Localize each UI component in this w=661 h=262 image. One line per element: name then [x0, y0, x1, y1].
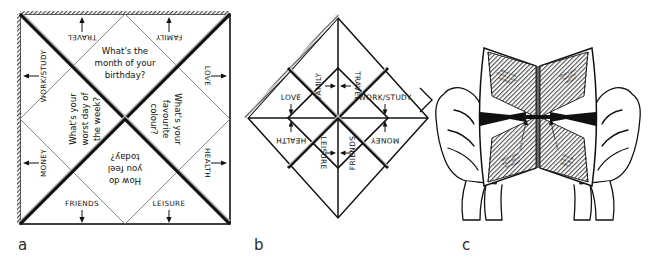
question-left-line1: What's your	[68, 93, 78, 145]
question-top-line1: What's the	[102, 46, 148, 56]
left-hand-finger-2	[485, 184, 503, 220]
fortune-teller-group: What's the month of your birthday? What'…	[480, 48, 597, 186]
category-friends: FRIENDS	[65, 199, 99, 208]
b-category-family-group: FAMILY	[314, 73, 323, 100]
category-travel-group: TRAVEL	[67, 33, 97, 42]
panel-b-folded-diamond: FAMILY TRAVEL LOVE HEALTH	[243, 8, 433, 228]
b-category-money: MONEY	[371, 136, 400, 145]
b-category-family: FAMILY	[314, 73, 323, 100]
category-love-group: LOVE	[203, 66, 212, 86]
right-hand-finger-1	[590, 181, 614, 220]
category-money: MONEY	[39, 149, 48, 177]
question-right-line1: What's your	[173, 93, 183, 145]
panel-label-a: a	[18, 238, 27, 253]
question-bottom-line1: How do	[109, 176, 141, 186]
category-health: HEALTH	[203, 148, 212, 178]
right-hand-finger-2	[574, 184, 592, 220]
question-right-line2: favourite	[161, 100, 171, 139]
b-category-health-group: HEALTH	[276, 136, 306, 145]
question-right-line3: colour?	[149, 103, 159, 134]
panel-label-b: b	[254, 238, 264, 253]
transition-arrow-icon	[420, 88, 432, 112]
question-top-line3: birthday?	[105, 70, 146, 80]
b-category-health: HEALTH	[276, 136, 306, 145]
panel-b-svg: FAMILY TRAVEL LOVE HEALTH	[243, 8, 433, 228]
question-left-line2: worst day of	[80, 91, 90, 145]
question-top-line2: month of your	[95, 58, 156, 68]
category-family-group: FAMILY	[156, 33, 183, 42]
question-bottom-line3: today?	[111, 152, 140, 162]
question-bottom-group: How do you feel today?	[108, 152, 143, 186]
category-health-group: HEALTH	[203, 148, 212, 178]
panel-c-hands-holding-fortune-teller: What's the month of your birthday? What'…	[418, 8, 658, 232]
category-travel: TRAVEL	[67, 33, 97, 42]
b-category-money-group: MONEY	[371, 136, 400, 145]
panel-a-svg: What's the month of your birthday? What'…	[14, 8, 236, 228]
category-workstudy-group: WORK/STUDY	[39, 49, 48, 102]
category-love: LOVE	[203, 66, 212, 86]
b-category-work-study: WORK/STUDY	[358, 93, 411, 102]
question-bottom-line2: you feel	[108, 164, 143, 174]
left-hand-finger-1	[462, 181, 486, 220]
category-family: FAMILY	[156, 33, 183, 42]
panel-c-svg: What's the month of your birthday? What'…	[418, 8, 658, 232]
question-left-group: What's your worst day of the week?	[68, 91, 102, 145]
arrow-shaft	[524, 115, 552, 119]
category-work-study: WORK/STUDY	[39, 49, 48, 102]
panel-label-c: c	[462, 238, 470, 253]
panel-a-unfolded-sheet: What's the month of your birthday? What'…	[14, 8, 236, 228]
b-category-love: LOVE	[281, 93, 301, 102]
category-money-group: MONEY	[39, 149, 48, 177]
category-leisure: LEISURE	[153, 199, 186, 208]
figure-root: What's the month of your birthday? What'…	[0, 0, 661, 262]
question-left-line3: the week?	[92, 97, 102, 141]
